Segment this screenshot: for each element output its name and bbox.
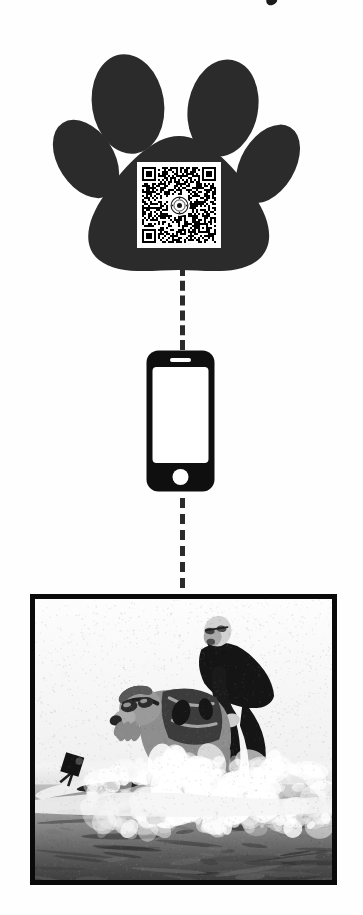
surfing-dog-photo xyxy=(35,599,332,880)
cropped-glyph-fragment xyxy=(265,0,279,6)
dashed-connector-phone-to-photo xyxy=(180,498,185,588)
dashed-connector-paw-to-phone xyxy=(180,266,185,350)
qr-code[interactable] xyxy=(137,162,221,248)
phone-home-button xyxy=(173,469,189,485)
smartphone-icon xyxy=(146,350,215,492)
photo-caption: Man in a black wetsuit surfing a wave wi… xyxy=(35,880,36,881)
framed-photograph: Man in a black wetsuit surfing a wave wi… xyxy=(30,594,337,885)
phone-earpiece-speaker xyxy=(170,358,191,362)
phone-screen xyxy=(153,367,209,463)
seal-crest-icon xyxy=(169,195,190,216)
